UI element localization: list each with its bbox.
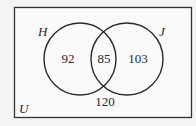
j-only-count: 103 <box>128 51 148 66</box>
universe-label: U <box>19 101 30 116</box>
venn-diagram: H J U 92 85 103 120 <box>0 0 196 126</box>
h-only-count: 92 <box>62 51 75 66</box>
set-h-label: H <box>37 24 48 39</box>
intersection-count: 85 <box>98 51 111 66</box>
outside-count: 120 <box>95 94 115 109</box>
